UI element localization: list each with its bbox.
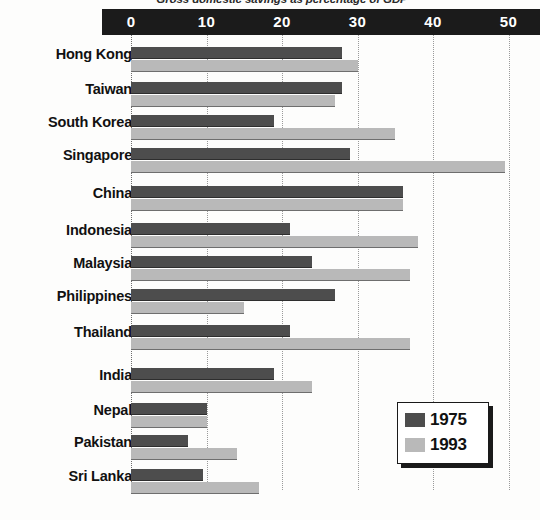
legend-swatch-icon-1975: [405, 413, 425, 427]
category-label-pakistan: Pakistan: [0, 434, 132, 450]
legend-label-1975: 1975: [430, 410, 467, 430]
bar-1993-philippines: [131, 302, 244, 314]
bar-1993-china: [131, 199, 403, 211]
bar-1993-india: [131, 381, 312, 393]
legend-entry-1993: 1993: [405, 434, 467, 456]
bar-1993-pakistan: [131, 448, 237, 460]
bar-1975-pakistan: [131, 435, 188, 447]
bar-1975-hong-kong: [131, 47, 342, 59]
bar-1993-nepal: [131, 416, 207, 428]
x-axis-tick-50: 50: [500, 12, 517, 32]
category-label-taiwan: Taiwan: [0, 81, 132, 97]
category-label-singapore: Singapore: [0, 147, 132, 163]
bar-1993-taiwan: [131, 95, 335, 107]
bar-1975-singapore: [131, 148, 350, 160]
bar-1975-indonesia: [131, 223, 290, 235]
category-label-south-korea: South Korea: [0, 114, 132, 130]
chart-row: Thailand: [0, 325, 540, 355]
chart-row: Taiwan: [0, 82, 540, 112]
x-axis-tick-20: 20: [273, 12, 290, 32]
bar-1975-south-korea: [131, 115, 274, 127]
bar-1975-philippines: [131, 289, 335, 301]
category-label-hong-kong: Hong Kong: [0, 46, 132, 62]
x-axis-header-bar: 01020304050: [102, 9, 540, 35]
category-label-india: India: [0, 367, 132, 383]
bar-1975-india: [131, 368, 274, 380]
chart-row: India: [0, 368, 540, 398]
chart-row: Sri Lanka: [0, 469, 540, 499]
bar-1975-taiwan: [131, 82, 342, 94]
bar-1975-china: [131, 186, 403, 198]
x-axis-tick-10: 10: [198, 12, 215, 32]
chart-row: Singapore: [0, 148, 540, 178]
category-label-thailand: Thailand: [0, 324, 132, 340]
chart-legend: 19751993: [397, 402, 489, 464]
category-label-malaysia: Malaysia: [0, 255, 132, 271]
chart-row: China: [0, 186, 540, 216]
bar-1993-singapore: [131, 161, 505, 173]
chart-row: Indonesia: [0, 223, 540, 253]
bar-1993-malaysia: [131, 269, 410, 281]
category-label-indonesia: Indonesia: [0, 222, 132, 238]
chart-row: Hong Kong: [0, 47, 540, 77]
category-label-sri-lanka: Sri Lanka: [0, 468, 132, 484]
chart-title: Gross domestic savings as percentage of …: [112, 0, 452, 7]
bar-1993-south-korea: [131, 128, 395, 140]
bar-1993-thailand: [131, 338, 410, 350]
bar-1975-nepal: [131, 403, 207, 415]
x-axis-tick-0: 0: [127, 12, 136, 32]
legend-label-1993: 1993: [430, 435, 467, 455]
chart-row: South Korea: [0, 115, 540, 145]
chart-row: Philippines: [0, 289, 540, 319]
category-label-nepal: Nepal: [0, 402, 132, 418]
bar-1975-thailand: [131, 325, 290, 337]
bar-1975-malaysia: [131, 256, 312, 268]
legend-swatch-icon-1993: [405, 438, 425, 452]
x-axis-tick-30: 30: [349, 12, 366, 32]
bar-1993-sri-lanka: [131, 482, 259, 494]
savings-bar-chart: Gross domestic savings as percentage of …: [0, 0, 540, 520]
bar-1975-sri-lanka: [131, 469, 203, 481]
bar-1993-indonesia: [131, 236, 418, 248]
category-label-china: China: [0, 185, 132, 201]
category-label-philippines: Philippines: [0, 288, 132, 304]
chart-row: Malaysia: [0, 256, 540, 286]
bar-1993-hong-kong: [131, 60, 358, 72]
x-axis-tick-40: 40: [424, 12, 441, 32]
legend-entry-1975: 1975: [405, 409, 467, 431]
